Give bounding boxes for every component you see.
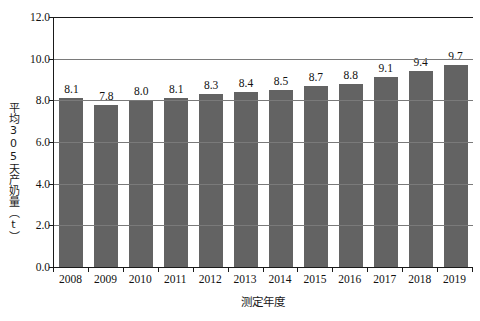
plot-area: 8.17.88.08.18.38.48.58.78.89.19.49.7 [53, 17, 472, 267]
bar-2015 [304, 86, 328, 267]
gridline-6.0 [54, 142, 473, 143]
x-tick-label-2014: 2014 [268, 273, 291, 285]
bar-value-label: 8.1 [169, 83, 183, 95]
bar-value-label: 9.1 [379, 62, 393, 74]
x-tick-label-2017: 2017 [373, 273, 396, 285]
x-tick-label-2008: 2008 [59, 273, 82, 285]
y-tick-label: 10.0 [20, 53, 50, 65]
y-tick-mark-6.0 [49, 142, 54, 143]
bar-2012 [199, 94, 223, 267]
y-tick-label: 2.0 [20, 219, 50, 231]
x-tick-label-2010: 2010 [129, 273, 152, 285]
y-tick-mark-12.0 [49, 17, 54, 18]
bar-value-label: 9.7 [448, 50, 462, 62]
gridline-2.0 [54, 225, 473, 226]
bar-2016 [339, 84, 363, 267]
bar-2019 [444, 65, 468, 267]
gridline-8.0 [54, 100, 473, 101]
y-tick-mark-2.0 [49, 225, 54, 226]
bar-value-label: 8.8 [344, 69, 358, 81]
bar-2014 [269, 90, 293, 267]
bar-value-label: 8.0 [134, 85, 148, 97]
y-tick-label: 6.0 [20, 136, 50, 148]
bar-value-label: 8.5 [274, 75, 288, 87]
x-tick-label-2011: 2011 [164, 273, 187, 285]
y-tick-label: 4.0 [20, 178, 50, 190]
bar-value-label: 8.3 [204, 79, 218, 91]
gridline-0.0 [54, 267, 473, 268]
x-tick-label-2016: 2016 [338, 273, 361, 285]
bar-value-label: 8.7 [309, 71, 323, 83]
x-tick-label-2018: 2018 [408, 273, 431, 285]
y-tick-mark-8.0 [49, 100, 54, 101]
x-tick-label-2012: 2012 [199, 273, 222, 285]
gridline-10.0 [54, 59, 473, 60]
bar-chart-figure: 平均305天产奶量（t） 0.02.04.06.08.010.012.0 8.1… [0, 0, 480, 321]
y-tick-mark-4.0 [49, 184, 54, 185]
y-tick-mark-0.0 [49, 267, 54, 268]
y-axis-tick-labels: 0.02.04.06.08.010.012.0 [18, 0, 50, 321]
bar-2008 [59, 98, 83, 267]
bar-value-label: 8.4 [239, 77, 253, 89]
bar-2017 [374, 77, 398, 267]
y-tick-label: 8.0 [20, 94, 50, 106]
x-tick-label-2015: 2015 [303, 273, 326, 285]
x-tick-label-2009: 2009 [94, 273, 117, 285]
bar-2009 [94, 105, 118, 268]
x-axis-tick-labels: 2008200920102011201220132014201520162017… [53, 273, 472, 289]
x-tick-label-2013: 2013 [234, 273, 257, 285]
bar-value-label: 8.1 [64, 83, 78, 95]
bar-2011 [164, 98, 188, 267]
x-axis-title: 测定年度 [53, 293, 472, 309]
gridline-12.0 [54, 17, 473, 18]
y-tick-label: 0.0 [20, 261, 50, 273]
x-tick-label-2019: 2019 [443, 273, 466, 285]
y-tick-mark-10.0 [49, 59, 54, 60]
bar-2013 [234, 92, 258, 267]
y-tick-label: 12.0 [20, 11, 50, 23]
gridline-4.0 [54, 184, 473, 185]
